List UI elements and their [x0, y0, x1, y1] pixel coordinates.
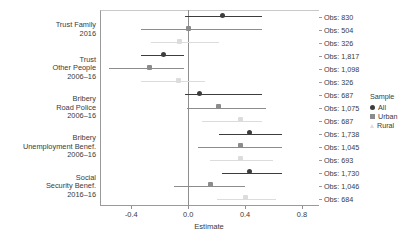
observation-count-label: Obs: 693	[324, 156, 353, 165]
confidence-interval-bar	[151, 42, 219, 43]
obs-tick	[319, 43, 322, 44]
obs-tick	[319, 199, 322, 200]
estimate-marker	[176, 78, 181, 83]
observation-count-label: Obs: 326	[324, 38, 353, 47]
forest-plot: Estimate Sample AllUrbanRural -0.40.00.4…	[0, 0, 418, 243]
y-axis-group-label: Social Security Benef. 2016–16	[2, 174, 96, 200]
legend-item-all[interactable]: All	[370, 103, 398, 112]
legend-marker-icon	[370, 124, 374, 128]
obs-tick	[319, 56, 322, 57]
estimate-marker	[220, 13, 225, 18]
observation-count-label: Obs: 1,817	[324, 51, 359, 60]
estimate-marker	[238, 143, 243, 148]
obs-tick	[319, 108, 322, 109]
estimate-marker	[247, 130, 252, 135]
legend-title: Sample	[370, 92, 398, 101]
estimate-marker	[208, 182, 213, 187]
legend-marker-icon	[370, 114, 375, 119]
x-axis-tick-label: 0.4	[240, 210, 250, 219]
obs-tick	[319, 160, 322, 161]
estimate-marker	[216, 104, 221, 109]
observation-count-label: Obs: 687	[324, 117, 353, 126]
estimate-marker	[243, 195, 248, 200]
obs-tick	[319, 17, 322, 18]
estimate-marker	[147, 65, 152, 70]
x-axis-tick	[131, 206, 132, 209]
observation-count-label: Obs: 504	[324, 25, 353, 34]
confidence-interval-bar	[141, 81, 205, 82]
obs-tick	[319, 147, 322, 148]
obs-tick	[319, 121, 322, 122]
confidence-interval-bar	[141, 29, 262, 30]
x-axis-tick-label: 0.8	[297, 210, 307, 219]
y-axis-group-label: Bribery Unemployment Benef. 2006–16	[2, 134, 96, 160]
confidence-interval-bar	[202, 121, 262, 122]
x-axis-title: Estimate	[0, 222, 418, 231]
observation-count-label: Obs: 687	[324, 90, 353, 99]
legend-marker-icon	[370, 105, 375, 110]
obs-tick	[319, 82, 322, 83]
x-axis-tick	[188, 206, 189, 209]
obs-tick	[319, 69, 322, 70]
estimate-marker	[177, 39, 182, 44]
legend-item-urban[interactable]: Urban	[370, 112, 398, 121]
x-axis-tick-label: 0.0	[183, 210, 193, 219]
legend-item-rural[interactable]: Rural	[370, 121, 398, 130]
y-axis-group-label: Trust Family 2016	[2, 21, 96, 38]
observation-count-label: Obs: 326	[324, 77, 353, 86]
observation-count-label: Obs: 1,098	[324, 64, 359, 73]
y-axis-group-label: Bribery Road Police 2006–16	[2, 95, 96, 121]
estimate-marker	[197, 91, 202, 96]
obs-tick	[319, 30, 322, 31]
x-axis-tick	[302, 206, 303, 209]
confidence-interval-bar	[109, 68, 184, 69]
estimate-row	[0, 37, 418, 48]
legend: Sample AllUrbanRural	[370, 92, 398, 130]
legend-item-label: All	[378, 103, 386, 112]
confidence-interval-bar	[222, 173, 282, 174]
x-axis-tick	[245, 206, 246, 209]
estimate-marker	[238, 156, 243, 161]
obs-tick	[319, 95, 322, 96]
obs-tick	[319, 173, 322, 174]
observation-count-label: Obs: 1,738	[324, 130, 359, 139]
estimate-marker	[238, 117, 243, 122]
observation-count-label: Obs: 1,046	[324, 182, 359, 191]
confidence-interval-bar	[187, 108, 267, 109]
observation-count-label: Obs: 830	[324, 12, 353, 21]
observation-count-label: Obs: 1,045	[324, 143, 359, 152]
legend-item-label: Urban	[378, 112, 398, 121]
observation-count-label: Obs: 684	[324, 195, 353, 204]
x-axis-tick-label: -0.4	[125, 210, 138, 219]
obs-tick	[319, 134, 322, 135]
observation-count-label: Obs: 1,730	[324, 169, 359, 178]
estimate-marker	[186, 26, 191, 31]
obs-tick	[319, 186, 322, 187]
y-axis-group-label: Trust Other People 2006–16	[2, 56, 96, 82]
legend-item-label: Rural	[377, 121, 394, 130]
observation-count-label: Obs: 1,075	[324, 104, 359, 113]
